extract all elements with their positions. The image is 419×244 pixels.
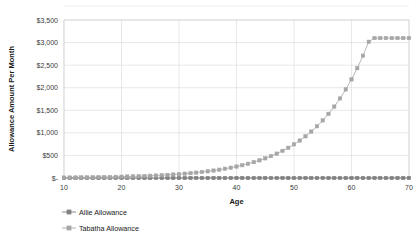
data-point-marker <box>189 176 192 179</box>
data-point-marker <box>195 176 198 179</box>
data-point-marker <box>200 170 203 173</box>
x-tick-label: 60 <box>348 184 356 191</box>
data-point-marker <box>195 171 198 174</box>
chart-container: $-$500$1,000$1,500$2,000$2,500$3,000$3,5… <box>0 0 419 244</box>
x-tick-label: 70 <box>405 184 413 191</box>
data-point-marker <box>80 176 83 179</box>
data-point-marker <box>344 176 347 179</box>
data-point-marker <box>321 119 324 122</box>
data-point-marker <box>327 176 330 179</box>
data-point-marker <box>120 175 123 178</box>
data-point-marker <box>183 172 186 175</box>
data-point-marker <box>154 174 157 177</box>
data-point-marker <box>350 176 353 179</box>
data-point-marker <box>269 176 272 179</box>
data-point-marker <box>74 176 77 179</box>
data-point-marker <box>315 125 318 128</box>
data-point-marker <box>298 176 301 179</box>
x-tick-label: 30 <box>175 184 183 191</box>
data-point-marker <box>310 130 313 133</box>
data-point-marker <box>304 176 307 179</box>
y-tick-label: $- <box>52 175 59 182</box>
data-point-marker <box>344 88 347 91</box>
data-point-marker <box>149 174 152 177</box>
data-point-marker <box>241 164 244 167</box>
data-point-marker <box>143 174 146 177</box>
legend-label: Tabatha Allowance <box>79 224 139 233</box>
data-point-marker <box>62 176 65 179</box>
y-tick-label: $2,500 <box>37 62 59 69</box>
data-point-marker <box>402 176 405 179</box>
data-point-marker <box>177 172 180 175</box>
x-tick-label: 50 <box>290 184 298 191</box>
legend-marker-swatch <box>67 210 71 214</box>
data-point-marker <box>206 170 209 173</box>
data-point-marker <box>287 146 290 149</box>
data-point-marker <box>407 36 410 39</box>
y-tick-label: $1,000 <box>37 129 59 136</box>
data-point-marker <box>373 36 376 39</box>
data-point-marker <box>114 175 117 178</box>
y-tick-label: $3,500 <box>37 17 59 24</box>
data-point-marker <box>384 176 387 179</box>
data-point-marker <box>241 176 244 179</box>
data-point-marker <box>218 168 221 171</box>
data-point-marker <box>356 176 359 179</box>
data-point-marker <box>183 176 186 179</box>
data-point-marker <box>166 173 169 176</box>
data-point-marker <box>333 176 336 179</box>
legend-item-2[interactable]: Tabatha Allowance <box>62 224 139 233</box>
data-point-marker <box>264 176 267 179</box>
data-point-marker <box>252 160 255 163</box>
data-point-marker <box>177 176 180 179</box>
data-point-marker <box>390 176 393 179</box>
data-point-marker <box>206 176 209 179</box>
data-point-marker <box>235 176 238 179</box>
data-point-marker <box>396 176 399 179</box>
data-point-marker <box>229 176 232 179</box>
legend-label: Allie Allowance <box>79 208 127 217</box>
data-point-marker <box>327 112 330 115</box>
data-point-marker <box>223 176 226 179</box>
data-point-marker <box>223 167 226 170</box>
data-point-marker <box>310 176 313 179</box>
data-point-marker <box>361 54 364 57</box>
data-point-marker <box>126 175 129 178</box>
data-point-marker <box>68 176 71 179</box>
data-point-marker <box>367 176 370 179</box>
data-point-marker <box>361 176 364 179</box>
data-point-marker <box>287 176 290 179</box>
data-point-marker <box>356 66 359 69</box>
data-point-marker <box>407 176 410 179</box>
data-point-marker <box>338 97 341 100</box>
data-point-marker <box>252 176 255 179</box>
data-point-marker <box>321 176 324 179</box>
data-point-marker <box>160 174 163 177</box>
data-point-marker <box>402 36 405 39</box>
data-point-marker <box>350 78 353 81</box>
data-point-marker <box>212 169 215 172</box>
data-point-marker <box>103 175 106 178</box>
data-point-marker <box>97 175 100 178</box>
data-point-marker <box>292 143 295 146</box>
data-point-marker <box>200 176 203 179</box>
data-point-marker <box>304 135 307 138</box>
x-tick-label: 10 <box>60 184 68 191</box>
data-point-marker <box>189 171 192 174</box>
data-point-marker <box>85 176 88 179</box>
data-point-marker <box>258 159 261 162</box>
data-point-marker <box>384 36 387 39</box>
legend-marker-swatch <box>67 226 71 230</box>
data-point-marker <box>212 176 215 179</box>
data-point-marker <box>338 176 341 179</box>
legend-item-1[interactable]: Allie Allowance <box>62 208 127 217</box>
x-tick-label: 20 <box>118 184 126 191</box>
data-point-marker <box>246 162 249 165</box>
data-point-marker <box>379 36 382 39</box>
data-point-marker <box>172 173 175 176</box>
data-point-marker <box>281 149 284 152</box>
data-point-marker <box>367 40 370 43</box>
data-point-marker <box>269 154 272 157</box>
y-tick-label: $1,500 <box>37 107 59 114</box>
data-point-marker <box>396 36 399 39</box>
